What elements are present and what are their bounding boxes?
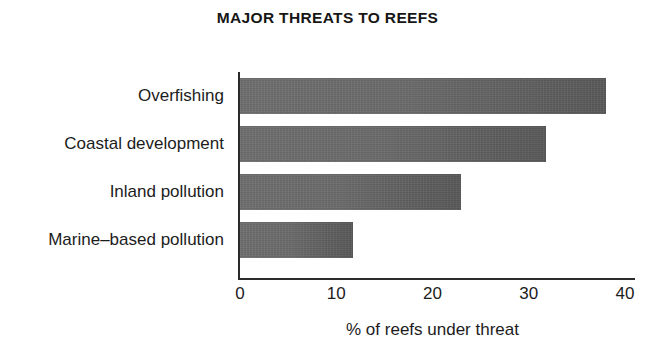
x-axis-title: % of reefs under threat	[240, 320, 625, 340]
bar-fill	[240, 222, 353, 258]
bar-fill	[240, 78, 606, 114]
chart-title: MAJOR THREATS TO REEFS	[0, 9, 655, 27]
x-axis-tick-label-30: 30	[499, 284, 559, 304]
x-axis-tick-label-0: 0	[210, 284, 270, 304]
y-axis-tick-labels: Overfishing Coastal development Inland p…	[0, 72, 232, 278]
x-axis-tick-label-20: 20	[403, 284, 463, 304]
y-axis-tick-label-marine-based-pollution: Marine–based pollution	[48, 222, 224, 258]
y-axis-tick-label-inland-pollution: Inland pollution	[110, 174, 224, 210]
x-axis-tick-label-10: 10	[306, 284, 366, 304]
x-axis-tick-labels: 010203040	[0, 284, 655, 308]
x-axis-tick-label-40: 40	[595, 284, 655, 304]
bar-fill	[240, 174, 461, 210]
x-axis-line	[238, 278, 635, 280]
bar-fill	[240, 126, 546, 162]
plot-area	[240, 72, 625, 278]
bar-chart-figure: MAJOR THREATS TO REEFS Overfishing Coast…	[0, 0, 655, 364]
y-axis-tick-label-coastal-development: Coastal development	[64, 126, 224, 162]
y-axis-tick-label-overfishing: Overfishing	[138, 78, 224, 114]
